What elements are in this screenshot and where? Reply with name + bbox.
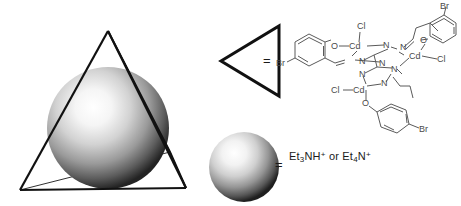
atom-label-n-a: N [383, 40, 390, 50]
atom-label-o-right: O [420, 35, 427, 45]
atom-label-br-top: Br [440, 2, 449, 11]
atom-label-n-f: N [381, 78, 388, 88]
atom-label-n-b: N [379, 58, 386, 68]
sphere-glyph [205, 128, 283, 206]
atom-label-cd-right: Cd [409, 51, 421, 61]
cation-et4n-label: Et4N+ [342, 150, 370, 162]
atom-label-n-e: N [391, 64, 398, 74]
equals-sign-row1: = [263, 54, 271, 67]
atom-label-cl-top: Cl [357, 21, 366, 31]
atom-label-n-d: N [359, 69, 366, 79]
atom-label-o-left: O [331, 41, 338, 51]
equals-sign-row2: = [275, 158, 283, 171]
cage-panel [0, 0, 213, 203]
atom-label-br-left: Br [276, 58, 285, 68]
atom-label-cd-bottom: Cd [353, 85, 365, 95]
atom-label-cl-right: Cl [437, 54, 446, 64]
atom-label-cd-left: Cd [349, 41, 361, 51]
cation-et3nh-label: Et3NH+ [289, 150, 326, 162]
legend-panel: = [213, 0, 426, 203]
atom-label-n-g: N [400, 42, 407, 52]
atom-label-cl-bottom: Cl [331, 85, 340, 95]
cation-legend-label: Et3NH+ or Et4N+ [289, 150, 371, 164]
trinuclear-cd-complex-structure: Cl O Cd N N N N N N N Cd Cl O Br Cl Cd O… [273, 2, 461, 142]
structure-atom-labels: Cl O Cd N N N N N N N Cd Cl O Br Cl Cd O… [276, 2, 449, 134]
encapsulated-sphere [47, 67, 169, 189]
atom-label-br-bottom: Br [419, 124, 428, 134]
structure-bonds [287, 7, 456, 133]
atom-label-o-bottom: O [362, 98, 369, 108]
cation-conjunction: or [329, 150, 342, 162]
tetrahedron-cage-graphic [0, 0, 213, 203]
atom-label-n-c: N [359, 56, 366, 66]
